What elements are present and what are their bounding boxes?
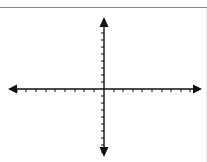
arrow-down-icon <box>100 147 109 157</box>
axis-arrows <box>8 17 202 157</box>
arrow-left-icon <box>8 85 17 94</box>
arrow-right-icon <box>193 85 202 94</box>
diagram-frame <box>0 0 207 162</box>
arrow-up-icon <box>100 17 109 27</box>
coordinate-plane <box>0 0 207 162</box>
